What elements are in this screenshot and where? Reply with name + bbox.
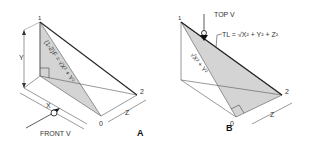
top-view-label: TOP V [214,11,235,18]
point-2-a: 2 [140,88,144,95]
point-1-a: 1 [38,15,42,21]
dim-z-label-a: Z [125,109,130,116]
front-view-arrow-icon [26,108,60,128]
point-2-b: 2 [285,88,289,95]
front-view-label: FRONT V [40,130,71,137]
dim-y-label-a: Y [19,54,24,61]
caption-a: A [137,128,144,138]
dim-x-label-a: X [46,102,51,109]
figure-a: Y X Z (1-2)F = √X² + Y² 1 2 0 FRONT V A [19,15,146,138]
dim-z-label-b: Z [270,111,275,118]
figure-b: √X² + Y² Z 1 2 0 TOP V TL = √X² + Y² + Z… [178,11,292,133]
point-1-b: 1 [178,15,182,21]
caption-b: B [226,123,233,133]
true-length-label: TL = √X² + Y² + Z² [222,31,279,38]
point-0-a: 0 [99,120,103,127]
